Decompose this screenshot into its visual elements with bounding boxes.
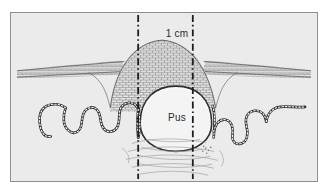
pus-label: Pus bbox=[151, 113, 203, 123]
keratin-layer-right bbox=[190, 56, 317, 82]
figure-root: 1 cm Pus bbox=[0, 0, 329, 192]
figure-frame: 1 cm Pus bbox=[10, 12, 318, 182]
scale-label: 1 cm bbox=[149, 29, 205, 39]
